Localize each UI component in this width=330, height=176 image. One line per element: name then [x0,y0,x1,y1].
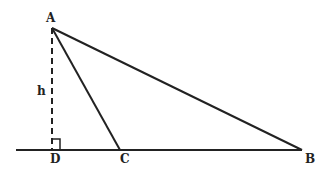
label-A: A [45,11,56,25]
triangle-diagram: A h D C B [0,0,330,176]
label-B: B [305,152,315,166]
right-angle-marker [52,139,60,150]
side-AB [52,28,302,150]
side-AC [52,28,120,150]
label-D: D [50,152,60,166]
label-C: C [120,152,130,166]
label-h: h [37,84,46,98]
